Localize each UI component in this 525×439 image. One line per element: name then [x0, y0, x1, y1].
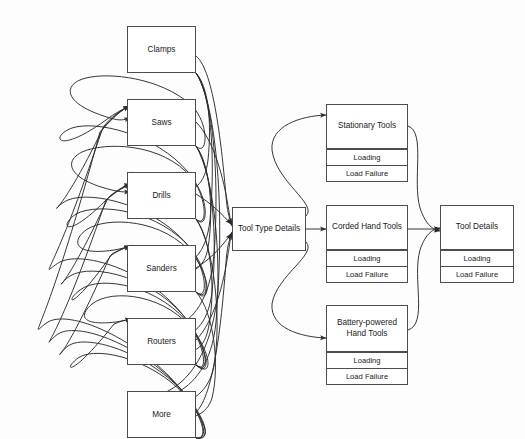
status-tool-details-load-failure: Load Failure	[440, 266, 514, 283]
node-battery-powered-hand-tools[interactable]: Battery-powered Hand Tools	[326, 305, 408, 352]
group-stationary-tools: Stationary Tools Loading Load Failure	[326, 104, 408, 182]
node-tool-type-routers[interactable]: Routers	[127, 318, 196, 365]
node-tool-details[interactable]: Tool Details	[440, 205, 514, 250]
group-battery-powered-hand-tools: Battery-powered Hand Tools Loading Load …	[326, 305, 408, 385]
status-label: Loading	[353, 153, 380, 162]
node-tool-type-drills[interactable]: Drills	[127, 172, 196, 219]
node-label: Saws	[151, 118, 171, 128]
status-tool-details-loading: Loading	[440, 250, 514, 267]
status-label: Load Failure	[456, 270, 498, 279]
node-label: More	[152, 410, 171, 420]
node-label: Stationary Tools	[338, 121, 396, 131]
node-corded-hand-tools[interactable]: Corded Hand Tools	[326, 205, 408, 250]
node-stationary-tools[interactable]: Stationary Tools	[326, 104, 408, 149]
status-battery-loading: Loading	[326, 352, 408, 369]
node-label: Tool Details	[456, 222, 498, 232]
node-label: Drills	[152, 191, 170, 201]
status-label: Loading	[353, 356, 380, 365]
status-label: Load Failure	[346, 270, 388, 279]
node-tool-type-more[interactable]: More	[127, 391, 196, 438]
status-stationary-loading: Loading	[326, 149, 408, 166]
status-label: Loading	[463, 254, 490, 263]
node-label: Tool Type Details	[238, 224, 300, 234]
status-label: Loading	[353, 254, 380, 263]
group-corded-hand-tools: Corded Hand Tools Loading Load Failure	[326, 205, 408, 283]
status-corded-load-failure: Load Failure	[326, 266, 408, 283]
status-battery-load-failure: Load Failure	[326, 368, 408, 385]
node-tool-type-saws[interactable]: Saws	[127, 99, 196, 146]
node-tool-type-sanders[interactable]: Sanders	[127, 245, 196, 292]
node-tool-type-details[interactable]: Tool Type Details	[232, 207, 306, 251]
node-label: Clamps	[148, 45, 176, 55]
status-corded-loading: Loading	[326, 250, 408, 267]
status-label: Load Failure	[346, 169, 388, 178]
node-label: Battery-powered Hand Tools	[327, 318, 407, 339]
node-label: Routers	[147, 337, 176, 347]
node-tool-type-clamps[interactable]: Clamps	[127, 26, 196, 73]
node-label: Sanders	[146, 264, 177, 274]
node-label: Corded Hand Tools	[332, 222, 402, 232]
status-stationary-load-failure: Load Failure	[326, 165, 408, 182]
status-label: Load Failure	[346, 372, 388, 381]
group-tool-details: Tool Details Loading Load Failure	[440, 205, 514, 283]
diagram-canvas: Clamps Saws Drills Sanders Routers More …	[0, 0, 525, 439]
